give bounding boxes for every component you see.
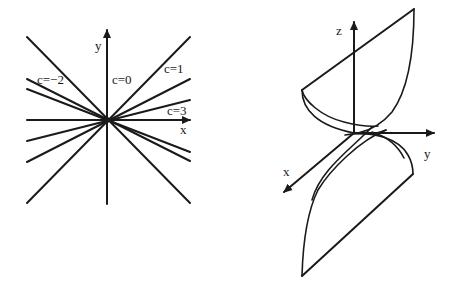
label-c-0: c=0: [112, 72, 132, 87]
x-axis-label-3d: x: [283, 164, 290, 179]
surface-figure: z y x: [283, 9, 434, 276]
lower-rim-front: [345, 134, 413, 174]
upper-rim-back: [302, 90, 378, 126]
label-c-1: c=1: [164, 61, 184, 76]
level-curves-figure: y x c=−2 c=0 c=1 c=3: [27, 30, 190, 204]
origin-dot: [104, 117, 110, 123]
lower-inner-edge: [312, 127, 372, 200]
lower-left-edge: [302, 130, 386, 276]
y-axis-label-3d: y: [424, 146, 431, 161]
x-axis-label: x: [180, 122, 187, 137]
y-axis-label: y: [95, 38, 102, 53]
z-axis-label: z: [336, 23, 342, 38]
top-ruling: [302, 9, 414, 90]
upper-right-edge: [358, 9, 414, 133]
label-c-3: c=3: [167, 103, 187, 118]
diagram-canvas: y x c=−2 c=0 c=1 c=3 z y x: [0, 0, 458, 291]
label-c-neg2: c=−2: [37, 72, 64, 87]
